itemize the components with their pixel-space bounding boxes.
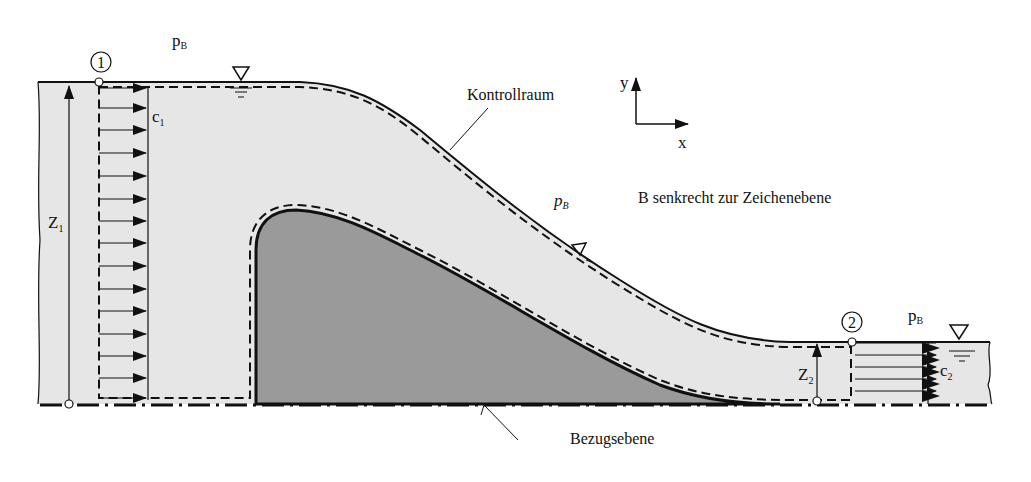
section-marker-icon-1: 1 (91, 52, 111, 72)
z2-base-point (813, 397, 821, 405)
svg-text:1: 1 (97, 54, 105, 71)
control-volume-label: Kontrollraum (467, 86, 555, 103)
pressure-label-top: pB (172, 31, 188, 51)
pressure-label-right: pB (908, 306, 924, 326)
coordinate-axes-icon: y x (620, 73, 688, 152)
reference-plane-leader-tick (481, 405, 484, 415)
reference-plane-label: Bezugsebene (570, 430, 654, 448)
reference-plane-leader (484, 405, 518, 440)
weir-flow-diagram: 1 2 y x pB pB pB c1 c2 (0, 0, 1031, 482)
width-note: B senkrecht zur Zeichenebene (638, 189, 831, 206)
z1-base-point (65, 400, 73, 408)
section-2-point (848, 338, 856, 346)
svg-text:2: 2 (848, 314, 856, 331)
control-volume-leader (450, 108, 488, 150)
section-marker-icon-2: 2 (842, 312, 862, 332)
section-1-point (95, 78, 103, 86)
svg-text:x: x (678, 133, 687, 152)
svg-text:y: y (620, 73, 629, 92)
pressure-label-slope: pB (553, 191, 569, 211)
left-boundary (38, 82, 40, 404)
